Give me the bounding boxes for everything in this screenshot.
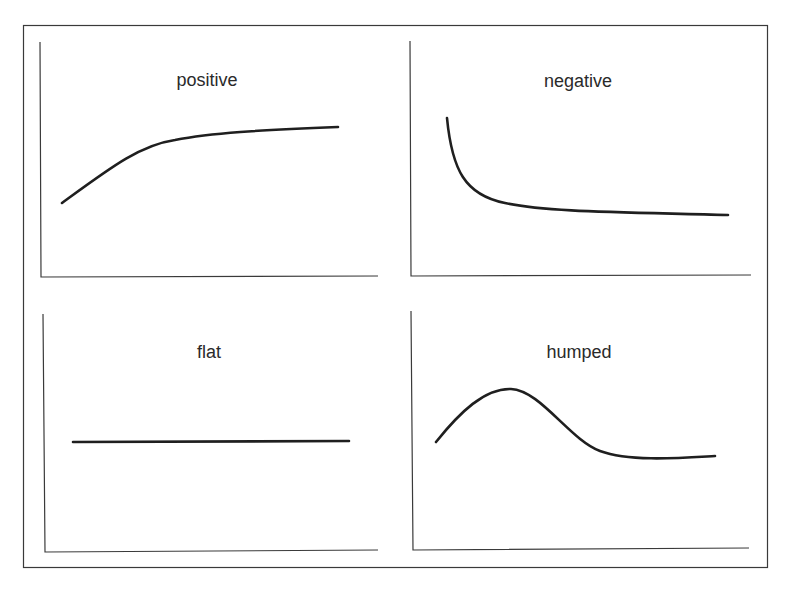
panel-title-flat: flat: [197, 342, 221, 363]
panel-title-positive: positive: [176, 70, 237, 91]
curve-negative: [447, 118, 728, 215]
curve-flat: [73, 441, 349, 442]
panel-title-negative: negative: [544, 71, 612, 92]
outer-frame: [24, 26, 768, 568]
curve-positive: [62, 127, 338, 203]
panel-title-humped: humped: [546, 342, 611, 363]
figure-canvas: [0, 0, 788, 590]
curve-humped: [436, 389, 715, 458]
